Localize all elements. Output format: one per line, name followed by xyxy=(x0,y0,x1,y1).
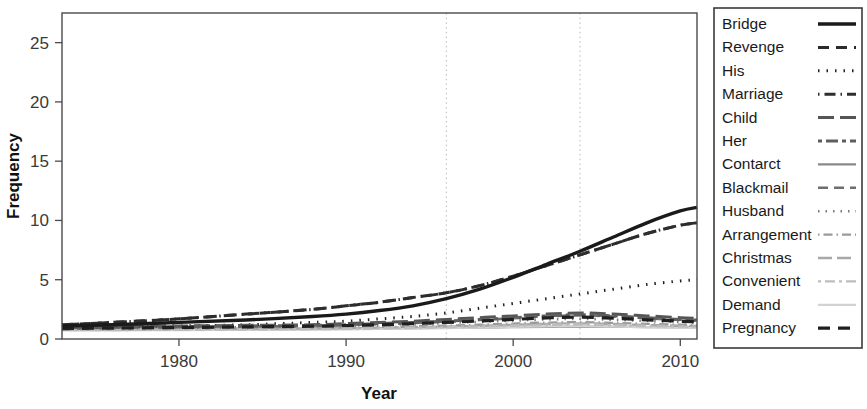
x-tick-label: 2010 xyxy=(661,352,699,371)
x-tick-label: 1990 xyxy=(327,352,365,371)
legend-label-arrangement: Arrangement xyxy=(722,226,812,243)
y-axis-title: Frequency xyxy=(4,132,23,219)
legend-label-revenge: Revenge xyxy=(722,38,784,55)
legend-label-marriage: Marriage xyxy=(722,85,783,102)
legend-label-husband: Husband xyxy=(722,202,784,219)
legend-label-her: Her xyxy=(722,132,747,149)
legend-label-demand: Demand xyxy=(722,296,781,313)
y-tick-label: 20 xyxy=(30,93,49,112)
legend-label-child: Child xyxy=(722,109,757,126)
x-axis-title: Year xyxy=(361,384,397,403)
legend-label-pregnancy: Pregnancy xyxy=(722,319,796,336)
legend-label-blackmail: Blackmail xyxy=(722,179,788,196)
y-tick-label: 10 xyxy=(30,211,49,230)
legend-label-bridge: Bridge xyxy=(722,15,767,32)
legend-label-convenient: Convenient xyxy=(722,272,801,289)
y-tick-label: 5 xyxy=(40,271,49,290)
chart-canvas: 1980199020002010 0510152025 Year Frequen… xyxy=(0,0,867,409)
x-tick-label: 2000 xyxy=(494,352,532,371)
y-tick-label: 0 xyxy=(40,330,49,349)
legend-label-christmas: Christmas xyxy=(722,249,792,266)
y-tick-label: 15 xyxy=(30,152,49,171)
legend-label-his: His xyxy=(722,62,745,79)
x-tick-label: 1980 xyxy=(160,352,198,371)
y-tick-label: 25 xyxy=(30,34,49,53)
legend-label-contarct: Contarct xyxy=(722,155,781,172)
frequency-by-year-line-chart: 1980199020002010 0510152025 Year Frequen… xyxy=(0,0,867,409)
